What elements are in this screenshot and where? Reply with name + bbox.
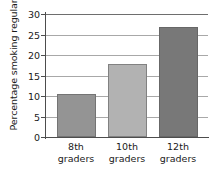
- y-tick-label: 15: [16, 70, 40, 81]
- x-axis-line: [45, 137, 209, 138]
- y-tick-label: 30: [16, 9, 40, 20]
- y-tick-label: 10: [16, 91, 40, 102]
- y-tick-label: 5: [16, 111, 40, 122]
- y-tick-label: 25: [16, 29, 40, 40]
- x-tick-label-12th-graders: 12th graders: [146, 141, 210, 164]
- plot-area: [46, 14, 208, 137]
- bar-10th-graders: [108, 64, 147, 137]
- y-axis-line: [45, 12, 46, 139]
- x-label-line-2: graders: [146, 153, 210, 165]
- y-tick-label: 20: [16, 50, 40, 61]
- y-tick-label: 0: [16, 132, 40, 143]
- bar-chart: Percentage smoking regularly 0 5 10 15 2…: [0, 0, 217, 177]
- bar-12th-graders: [159, 27, 198, 137]
- gridline: [46, 14, 208, 15]
- x-label-line-1: 12th: [146, 141, 210, 153]
- bar-8th-graders: [57, 94, 96, 137]
